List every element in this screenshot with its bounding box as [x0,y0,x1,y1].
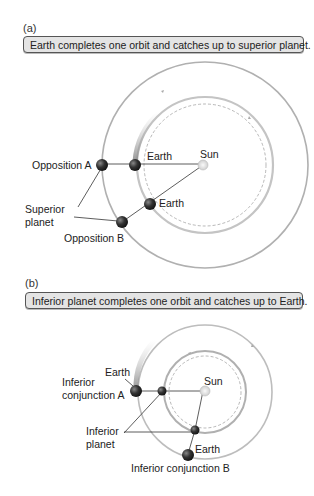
earth-b-2 [182,449,194,461]
earth-a-1 [129,159,141,171]
label-earth-b-1: Earth [105,366,130,378]
inferior-planet-a [158,387,167,396]
label-earth-a-1: Earth [147,150,172,162]
label-inferior-conj-a-2: conjunction A [62,389,124,401]
label-earth-a-2: Earth [159,197,184,209]
panel-b-label: (b) [25,277,38,289]
label-sun-a: Sun [200,148,219,160]
label-opposition-a: Opposition A [32,159,92,171]
inferior-planet-b [191,426,200,435]
label-superior-2: planet [25,216,54,228]
superior-planet-opposition-a [96,159,108,171]
label-inferior-conj-a-1: Inferior [62,376,95,388]
label-sun-b: Sun [204,375,223,387]
superior-planet-opposition-b [116,216,128,228]
sun-a [198,160,208,170]
label-inferior-planet-2: planet [86,438,115,450]
earth-a-2 [144,198,156,210]
label-inferior-planet-1: Inferior [86,425,119,437]
earth-b-1 [130,385,142,397]
label-inferior-conj-b: Inferior conjunction B [131,462,230,474]
orbit-diagrams [0,0,314,496]
panel-b-caption: Inferior planet completes one orbit and … [25,292,303,309]
sun-b [200,386,210,396]
label-opposition-b: Opposition B [64,232,124,244]
label-earth-b-2: Earth [195,443,220,455]
label-superior-1: Superior [25,203,65,215]
